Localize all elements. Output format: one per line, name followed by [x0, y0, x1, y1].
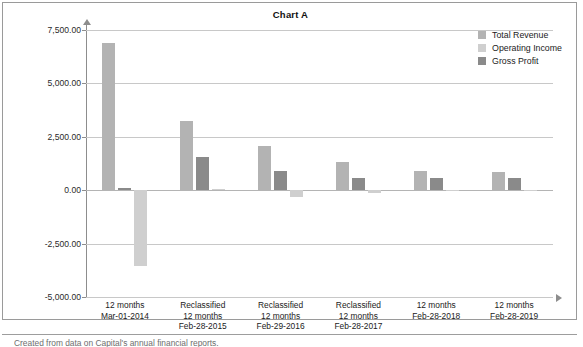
bar-gross-profit[interactable] — [118, 188, 131, 190]
bar-gross-profit[interactable] — [352, 178, 365, 190]
y-axis-tick-label: 0.00 — [64, 185, 81, 195]
bar-gross-profit[interactable] — [430, 178, 443, 190]
legend-label: Total Revenue — [492, 30, 548, 40]
bar-group — [164, 30, 242, 297]
bar-group — [475, 30, 553, 297]
legend-item-gross-profit[interactable]: Gross Profit — [478, 56, 562, 66]
bar-operating-income[interactable] — [446, 190, 459, 191]
legend-label: Operating Income — [492, 43, 562, 53]
bar-total-revenue[interactable] — [180, 121, 193, 190]
footer-caption: Created from data on Capital's annual fi… — [14, 338, 574, 347]
bar-total-revenue[interactable] — [102, 43, 115, 190]
y-axis-tick-label: -5,000.00 — [45, 292, 81, 302]
legend-swatch-icon — [478, 57, 486, 65]
bar-total-revenue[interactable] — [258, 146, 271, 190]
bar-operating-income[interactable] — [368, 190, 381, 193]
x-axis-category-label: Reclassified 12 months Feb-28-2017 — [320, 300, 398, 332]
legend-swatch-icon — [478, 31, 486, 39]
bar-operating-income[interactable] — [212, 189, 225, 190]
footer-divider — [2, 334, 577, 335]
bar-gross-profit[interactable] — [196, 157, 209, 190]
legend-item-total-revenue[interactable]: Total Revenue — [478, 30, 562, 40]
x-axis-category-label: Reclassified 12 months Feb-29-2016 — [242, 300, 320, 332]
bar-operating-income[interactable] — [524, 190, 537, 191]
x-axis-category-label: 12 months Feb-28-2019 — [475, 300, 553, 321]
bar-group — [86, 30, 164, 297]
x-axis-category-label: 12 months Mar-01-2014 — [86, 300, 164, 321]
y-axis-labels: 7,500.005,000.002,500.000.00-2,500.00-5,… — [3, 30, 81, 297]
chart-legend: Total RevenueOperating IncomeGross Profi… — [478, 30, 562, 69]
gridline — [86, 297, 553, 298]
bar-group — [242, 30, 320, 297]
legend-label: Gross Profit — [492, 56, 538, 66]
bar-group — [320, 30, 398, 297]
legend-item-operating-income[interactable]: Operating Income — [478, 43, 562, 53]
y-axis-tick-label: -2,500.00 — [45, 239, 81, 249]
bar-gross-profit[interactable] — [274, 171, 287, 190]
bar-total-revenue[interactable] — [414, 171, 427, 190]
y-axis-tick — [82, 297, 86, 298]
plot-area — [86, 30, 553, 297]
bar-total-revenue[interactable] — [336, 162, 349, 190]
x-axis-arrow-icon — [556, 294, 562, 302]
y-axis-arrow-icon — [83, 19, 91, 25]
chart-frame: Chart A 7,500.005,000.002,500.000.00-2,5… — [2, 2, 577, 320]
legend-swatch-icon — [478, 44, 486, 52]
bar-gross-profit[interactable] — [508, 178, 521, 190]
bar-operating-income[interactable] — [134, 190, 147, 266]
y-axis-tick-label: 7,500.00 — [48, 25, 81, 35]
y-axis-tick-label: 5,000.00 — [48, 78, 81, 88]
bar-operating-income[interactable] — [290, 190, 303, 197]
x-axis-category-label: Reclassified 12 months Feb-28-2015 — [164, 300, 242, 332]
bar-total-revenue[interactable] — [492, 172, 505, 191]
y-axis-tick-label: 2,500.00 — [48, 132, 81, 142]
x-axis-category-label: 12 months Feb-28-2018 — [397, 300, 475, 321]
bar-group — [397, 30, 475, 297]
